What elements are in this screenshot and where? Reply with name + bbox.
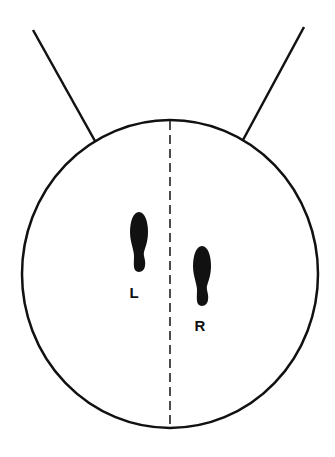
right-boundary-line bbox=[243, 27, 304, 140]
left-boundary-line bbox=[33, 30, 95, 141]
right-foot-label: R bbox=[195, 317, 206, 334]
footprint-diagram: L R bbox=[0, 0, 335, 457]
right-footprint-icon bbox=[193, 246, 211, 306]
left-foot-label: L bbox=[129, 284, 138, 301]
left-footprint-icon bbox=[130, 212, 148, 272]
